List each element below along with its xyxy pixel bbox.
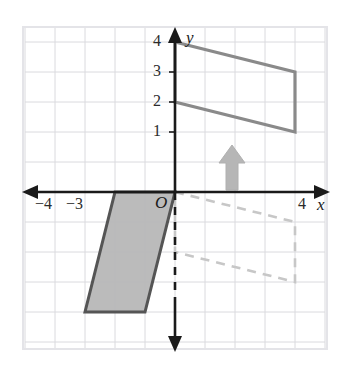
x-tick-label-minus-3: −3 [66,195,83,213]
coordinate-plane-figure: #plot-svg g[data-name="grid-lines"] line… [0,0,353,382]
y-tick-label-4: 4 [153,32,161,50]
x-tick-label-minus-4: −4 [35,195,52,213]
y-tick-label-3: 3 [153,62,161,80]
origin-label: O [155,193,167,213]
y-tick-label-1: 1 [153,122,161,140]
plot-canvas: #plot-svg g[data-name="grid-lines"] line… [0,0,353,382]
translation-arrow-icon [219,145,245,190]
x-axis-label: x [317,195,325,215]
y-axis [168,27,182,352]
y-axis-label: y [186,28,194,48]
x-tick-label-4: 4 [298,195,306,213]
y-tick-label-2: 2 [153,92,161,110]
